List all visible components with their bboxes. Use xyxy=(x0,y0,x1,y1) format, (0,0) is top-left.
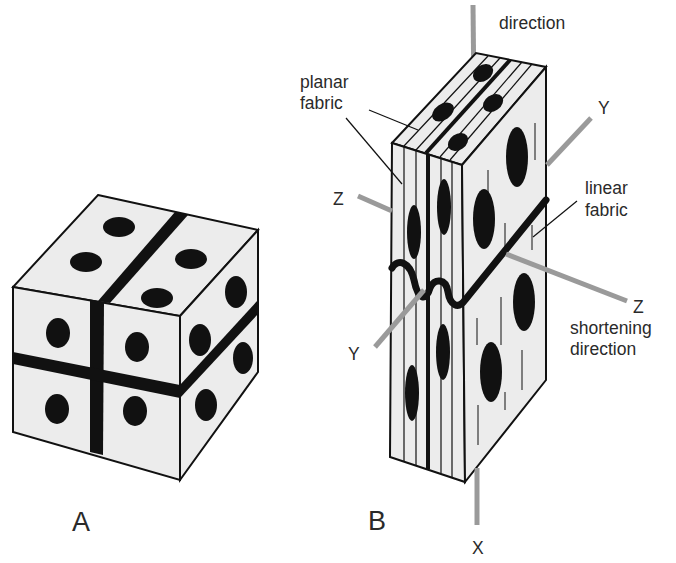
panel-label-a: A xyxy=(72,507,90,537)
y-axis-upper-line xyxy=(547,118,591,165)
planar-fabric-leader-1 xyxy=(369,110,418,130)
y-axis-label-upper: Y xyxy=(598,98,610,118)
z-axis-left-line xyxy=(358,196,392,211)
z-axis-label-right: Z xyxy=(633,297,644,317)
block-b xyxy=(390,53,546,482)
shortening-label-1: shortening xyxy=(570,318,652,338)
panel-label-b: B xyxy=(368,506,386,536)
linear-fabric-label-1: linear xyxy=(585,178,628,198)
z-axis-label-left: Z xyxy=(333,189,344,209)
cube-a xyxy=(13,195,258,480)
y-axis-label-lower: Y xyxy=(348,344,360,364)
planar-fabric-label-2: fabric xyxy=(300,93,343,113)
shortening-label-2: direction xyxy=(570,339,636,359)
linear-fabric-label-2: fabric xyxy=(585,200,628,220)
diagram-canvas: A xyxy=(0,0,676,563)
x-axis-label-bottom: X xyxy=(472,538,484,558)
direction-label-top: direction xyxy=(499,13,565,33)
planar-fabric-label-1: planar xyxy=(300,72,349,92)
